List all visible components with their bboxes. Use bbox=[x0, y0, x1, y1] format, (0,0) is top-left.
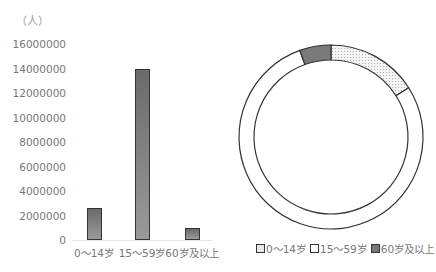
legend-swatch-icon bbox=[310, 244, 319, 253]
donut-slice bbox=[331, 45, 409, 96]
x-tick-label: 0～14岁 bbox=[74, 245, 114, 260]
donut-ring bbox=[236, 42, 426, 232]
y-tick: 14000000 bbox=[13, 63, 66, 75]
y-tick: 6000000 bbox=[19, 161, 66, 173]
bar bbox=[87, 208, 102, 240]
x-tick-label: 15～59岁 bbox=[119, 245, 166, 260]
legend-item: 0～14岁 bbox=[256, 241, 306, 256]
y-tick: 16000000 bbox=[13, 38, 66, 50]
x-tick-label: 60岁及以上 bbox=[165, 245, 218, 260]
legend-label: 0～14岁 bbox=[266, 241, 306, 256]
legend-swatch-icon bbox=[256, 244, 265, 253]
y-axis-unit-label: （人） bbox=[16, 12, 49, 28]
legend-item: 60岁及以上 bbox=[371, 241, 434, 256]
legend-item: 15～59岁 bbox=[310, 241, 367, 256]
y-tick: 10000000 bbox=[13, 112, 66, 124]
y-tick: 4000000 bbox=[19, 185, 66, 197]
legend-label: 60岁及以上 bbox=[381, 241, 434, 256]
y-tick: 2000000 bbox=[19, 210, 66, 222]
x-axis-line bbox=[72, 240, 212, 241]
legend-swatch-icon bbox=[371, 244, 380, 253]
donut-legend: 0～14岁 15～59岁 60岁及以上 bbox=[256, 241, 434, 256]
y-tick: 12000000 bbox=[13, 87, 66, 99]
y-tick: 0 bbox=[59, 234, 66, 246]
legend-label: 15～59岁 bbox=[320, 241, 367, 256]
donut-chart bbox=[236, 42, 426, 236]
bar bbox=[185, 228, 200, 240]
y-tick: 8000000 bbox=[19, 136, 66, 148]
donut-slice bbox=[300, 45, 331, 65]
bar bbox=[135, 69, 150, 241]
